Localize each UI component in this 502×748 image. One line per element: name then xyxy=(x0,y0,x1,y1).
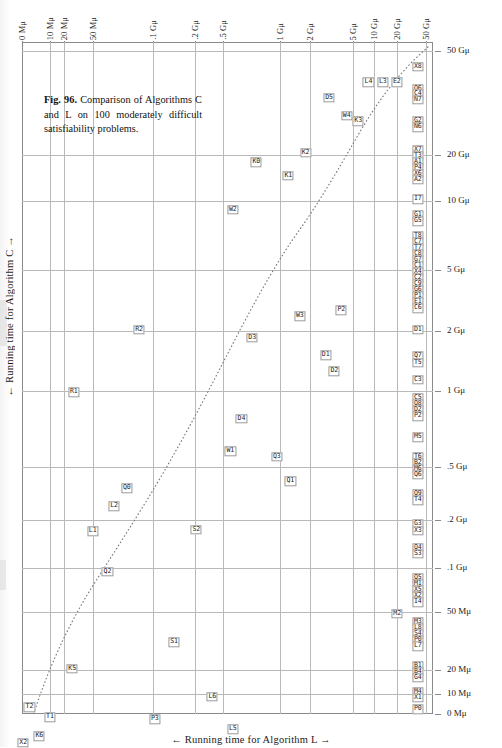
gridline-vertical-4 xyxy=(195,42,196,714)
data-point-i4: I4 xyxy=(412,598,423,607)
data-point-x1: X1 xyxy=(412,693,423,702)
data-point-p3: P3 xyxy=(149,715,160,724)
data-point-q1: Q1 xyxy=(285,477,296,486)
data-point-c6: C6 xyxy=(412,303,423,312)
gridline-horizontal-10 xyxy=(22,670,433,671)
y-tick-mark-8 xyxy=(435,568,441,569)
data-point-d1: D1 xyxy=(412,325,423,334)
data-point-k0: K0 xyxy=(251,158,262,167)
data-point-p0: P0 xyxy=(412,705,423,714)
data-point-l3: L3 xyxy=(377,78,388,87)
data-point-q2: Q2 xyxy=(102,567,113,576)
data-point-s1: S1 xyxy=(169,637,180,646)
y-tick-label-11: 10 Mμ xyxy=(447,688,471,698)
y-tick-mark-2 xyxy=(435,201,441,202)
x-tick-label-7: 1 Gμ xyxy=(275,23,285,40)
data-point-q0: Q0 xyxy=(121,484,132,493)
y-tick-label-1: 20 Gμ xyxy=(447,149,470,159)
x-tick-label-10: 10 Gμ xyxy=(369,18,379,40)
y-tick-label-0: 50 Gμ xyxy=(447,45,470,55)
y-tick-label-9: 50 Mμ xyxy=(447,606,471,616)
data-point-w2: W2 xyxy=(227,205,238,214)
data-point-w3: W3 xyxy=(294,311,305,320)
data-point-k2: K2 xyxy=(300,148,311,157)
data-point-w1: W1 xyxy=(225,447,236,456)
y-tick-mark-10 xyxy=(435,670,441,671)
y-tick-mark-6 xyxy=(435,467,441,468)
data-point-x8: X8 xyxy=(412,62,423,71)
gridline-horizontal-11 xyxy=(22,694,433,695)
data-point-l2: L2 xyxy=(109,502,120,511)
y-tick-mark-5 xyxy=(435,391,441,392)
x-tick-label-12: 50 Gμ xyxy=(421,18,431,40)
gridline-vertical-11 xyxy=(426,42,427,714)
gridline-horizontal-8 xyxy=(22,568,433,569)
x-tick-label-9: 5 Gμ xyxy=(348,23,358,40)
data-point-a2: A2 xyxy=(412,175,423,184)
x-tick-label-8: 2 Gμ xyxy=(305,23,315,40)
data-point-x3: X3 xyxy=(412,526,423,535)
y-tick-mark-9 xyxy=(435,612,441,613)
data-point-l5: L5 xyxy=(227,725,238,734)
data-point-p2: P2 xyxy=(336,305,347,314)
trend-curve xyxy=(22,42,433,714)
x-tick-label-3: 50 Mμ xyxy=(88,17,98,40)
gridline-vertical-9 xyxy=(374,42,375,714)
gridline-vertical-3 xyxy=(153,42,154,714)
data-point-k3: K3 xyxy=(353,117,364,126)
gridline-horizontal-2 xyxy=(22,201,433,202)
data-point-t2: T2 xyxy=(24,703,35,712)
x-tick-label-6: .5 Gμ xyxy=(218,20,228,40)
x-axis-title: ← Running time for Algorithm L → xyxy=(0,734,502,745)
data-point-m2: M2 xyxy=(392,609,403,618)
data-point-q3: Q3 xyxy=(271,452,282,461)
data-point-d5: D5 xyxy=(323,93,334,102)
data-point-s3: S3 xyxy=(412,549,423,558)
x-tick-label-5: .2 Gμ xyxy=(190,20,200,40)
x-tick-label-11: 20 Gμ xyxy=(392,18,402,40)
gridline-vertical-0 xyxy=(50,42,51,714)
gridline-horizontal-1 xyxy=(22,155,433,156)
gridline-vertical-2 xyxy=(93,42,94,714)
data-point-r1: R1 xyxy=(68,387,79,396)
axis-bottom xyxy=(22,713,433,714)
x-tick-label-0: 0 Mμ xyxy=(17,21,27,40)
y-tick-label-8: .1 Gμ xyxy=(447,562,467,572)
y-tick-label-2: 10 Gμ xyxy=(447,195,470,205)
data-point-d4: D4 xyxy=(236,414,247,423)
data-point-w4: W4 xyxy=(341,111,352,120)
data-point-g5: G5 xyxy=(412,217,423,226)
data-point-k1: K1 xyxy=(283,171,294,180)
gridline-horizontal-9 xyxy=(22,612,433,613)
data-point-k5: K5 xyxy=(67,664,78,673)
y-tick-mark-4 xyxy=(435,331,441,332)
data-point-l6: L6 xyxy=(207,692,218,701)
y-tick-label-5: 1 Gμ xyxy=(447,385,465,395)
data-point-t5: T5 xyxy=(412,358,423,367)
data-point-d3: D3 xyxy=(247,333,258,342)
x-tick-label-4: .1 Gμ xyxy=(148,20,158,40)
y-tick-mark-3 xyxy=(435,270,441,271)
data-point-r2: R2 xyxy=(134,325,145,334)
scan-artifact xyxy=(0,560,6,590)
y-axis-title: ← Running time for Algorithm C → xyxy=(4,236,15,396)
gridline-vertical-8 xyxy=(353,42,354,714)
gridline-horizontal-0 xyxy=(22,51,433,52)
data-point-m5: M5 xyxy=(412,432,423,441)
data-point-x2: X2 xyxy=(18,738,29,747)
data-point-l4: L4 xyxy=(363,78,374,87)
data-point-k6: K6 xyxy=(34,731,45,740)
y-tick-mark-0 xyxy=(435,51,441,52)
data-point-t1: T1 xyxy=(44,713,55,722)
data-point-s2: S2 xyxy=(191,525,202,534)
y-tick-mark-11 xyxy=(435,694,441,695)
y-tick-mark-7 xyxy=(435,520,441,521)
gridline-horizontal-3 xyxy=(22,270,433,271)
data-point-n7: N7 xyxy=(412,95,423,104)
x-tick-label-2: 20 Mμ xyxy=(59,17,69,40)
caption-label: Fig. 96. xyxy=(44,94,77,105)
gridline-horizontal-7 xyxy=(22,520,433,521)
gridline-vertical-6 xyxy=(280,42,281,714)
y-tick-label-3: 5 Gμ xyxy=(447,264,465,274)
